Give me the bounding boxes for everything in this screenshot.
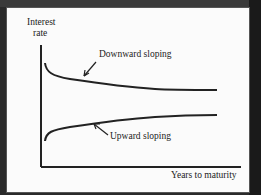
downward-label: Downward sloping [99,49,172,59]
upward-label: Upward sloping [110,131,171,141]
upward-arrow [94,124,108,135]
x-axis-label: Years to maturity [171,170,237,180]
y-axis-label-line2: rate [33,28,47,38]
downward-curve [45,63,217,90]
y-axis-label-line1: Interest [27,17,56,27]
downward-arrow [84,62,96,76]
